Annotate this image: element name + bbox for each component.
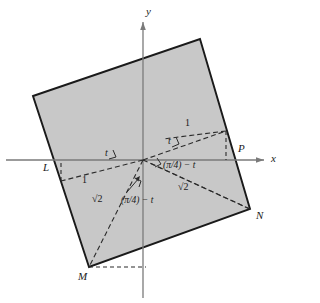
x-axis-label: x [271,153,276,164]
point-label-N: N [256,210,263,221]
angle-label-t-right: t [168,136,171,146]
y-axis-label: y [146,6,151,17]
point-label-M: M [78,271,87,282]
point-label-P: P [238,143,245,154]
y-axis-arrow [140,22,146,30]
angle-label-t-left: t [105,148,108,158]
segment-label-one-lower-left: 1 [82,175,87,185]
segment-label-sqrt2-right: √2 [178,182,189,192]
segment-label-sqrt2-left: √2 [92,194,103,204]
angle-label-pi4-minus-t-right: (π/4) − t [163,161,195,171]
rotated-square [33,39,250,267]
x-axis-arrow [256,157,264,163]
point-label-L: L [43,162,49,173]
angle-label-pi4-minus-t-lower: (π/4) − t [121,196,153,206]
segment-label-one-upper-right: 1 [185,118,190,128]
